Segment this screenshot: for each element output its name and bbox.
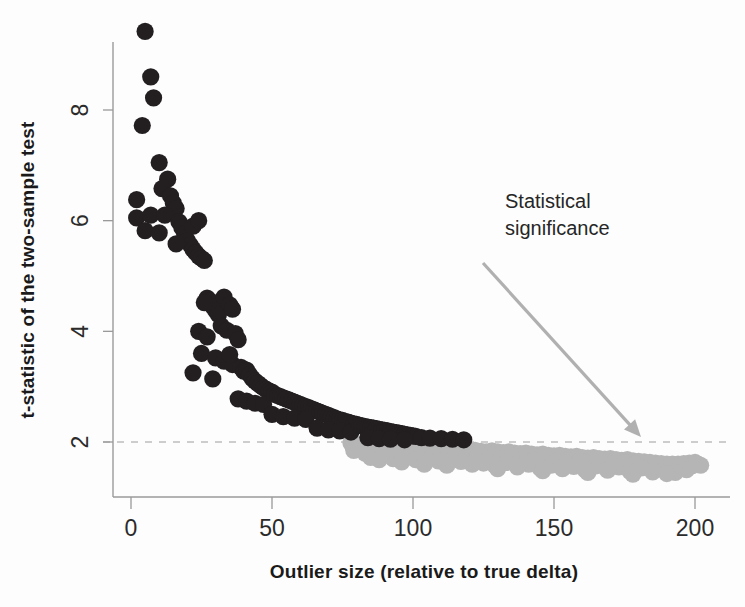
annotation-arrow — [483, 263, 641, 437]
data-point — [534, 462, 551, 479]
data-point — [624, 465, 641, 482]
data-point — [204, 370, 221, 387]
y-axis-ticks: 2468 — [67, 104, 113, 449]
y-axis-title: t-statistic of the two-sample test — [17, 121, 38, 419]
data-point — [509, 458, 526, 475]
annotation-line-1: Statistical — [505, 190, 591, 212]
x-tick-label: 0 — [125, 515, 138, 541]
data-point — [455, 431, 472, 448]
data-point — [151, 224, 168, 241]
data-point — [190, 212, 207, 229]
x-tick-label: 50 — [259, 515, 285, 541]
x-tick-label: 100 — [394, 515, 432, 541]
data-point — [393, 453, 410, 470]
x-axis-ticks: 050100150200 — [125, 497, 715, 541]
scatter-plot: 2468 050100150200 Statistical significan… — [0, 0, 745, 607]
data-point — [134, 117, 151, 134]
data-point — [151, 154, 168, 171]
data-point — [371, 451, 388, 468]
data-point — [145, 89, 162, 106]
y-tick-label: 8 — [67, 104, 93, 117]
data-point — [221, 346, 238, 363]
data-point — [199, 328, 216, 345]
data-point — [128, 191, 145, 208]
data-point — [196, 252, 213, 269]
data-point — [142, 68, 159, 85]
x-tick-label: 150 — [535, 515, 573, 541]
series-significant — [128, 23, 472, 449]
data-point — [489, 460, 506, 477]
y-tick-label: 2 — [67, 436, 93, 449]
data-point — [599, 462, 616, 479]
data-point — [224, 301, 241, 318]
data-point — [579, 464, 596, 481]
data-point — [416, 456, 433, 473]
data-point — [658, 465, 675, 482]
y-tick-label: 4 — [67, 325, 93, 338]
x-axis-title: Outlier size (relative to true delta) — [270, 561, 578, 582]
data-point — [184, 364, 201, 381]
data-point — [168, 235, 185, 252]
figure-container: 2468 050100150200 Statistical significan… — [0, 0, 745, 607]
x-tick-label: 200 — [676, 515, 714, 541]
y-tick-label: 6 — [67, 214, 93, 227]
data-point — [464, 456, 481, 473]
annotation-line-2: significance — [505, 217, 610, 239]
data-point — [230, 331, 247, 348]
data-point — [438, 457, 455, 474]
data-point — [396, 431, 413, 448]
data-point — [137, 23, 154, 40]
data-point — [196, 294, 213, 311]
data-point — [554, 460, 571, 477]
